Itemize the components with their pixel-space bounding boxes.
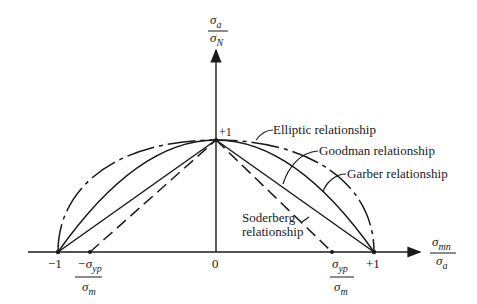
neg-yield-den: σm	[82, 279, 96, 297]
elliptic-leader	[256, 130, 273, 140]
garber-leader	[323, 174, 346, 192]
neg-yield-num: −σyp	[77, 256, 102, 274]
point-plus1	[372, 250, 376, 254]
y-tick-plus1: +1	[219, 125, 232, 139]
goodman-label: Goodman relationship	[319, 143, 435, 158]
point-pos-yield	[330, 250, 334, 254]
garber-label: Garber relationship	[347, 166, 448, 181]
soderberg-leader	[302, 217, 309, 222]
x-tick-minus1: −1	[48, 256, 62, 271]
x-tick-zero: 0	[212, 256, 219, 271]
goodman-line-left	[58, 140, 216, 252]
goodman-leader	[283, 151, 318, 184]
point-top	[214, 138, 218, 142]
x-label-num: σmn	[432, 234, 451, 252]
fatigue-diagram: σa σN +1 −1 0 +1 −σyp σm σyp σm σmn σa E…	[0, 0, 477, 304]
soderberg-label-line1: Soderberg	[242, 210, 296, 225]
pos-yield-num: σyp	[332, 256, 348, 274]
soderberg-line-left	[90, 140, 216, 252]
x-label-den: σa	[436, 253, 447, 271]
point-neg-yield	[88, 250, 92, 254]
point-minus1	[56, 250, 60, 254]
x-tick-plus1: +1	[366, 256, 380, 271]
elliptic-label: Elliptic relationship	[273, 122, 376, 137]
y-label-num: σa	[210, 12, 221, 30]
soderberg-label-line2: relationship	[242, 224, 303, 239]
pos-yield-den: σm	[334, 279, 348, 297]
y-label-den: σN	[210, 30, 224, 48]
